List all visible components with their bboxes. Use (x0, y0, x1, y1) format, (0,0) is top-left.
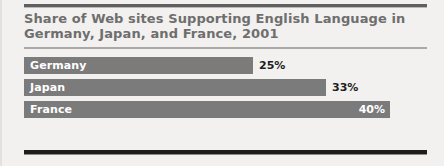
bar-row: France 40% (24, 101, 427, 118)
bar-row: Japan 33% (24, 79, 427, 96)
bar-plot-area: Germany 25% Japan 33% France 40% (24, 57, 427, 145)
chart-title: Share of Web sites Supporting English La… (24, 11, 424, 41)
chart-figure: Share of Web sites Supporting English La… (0, 0, 444, 166)
bar-value-label-japan: 33% (332, 81, 358, 94)
bottom-divider-rule (24, 150, 427, 155)
bar-value-label-france: 40% (359, 104, 385, 115)
bar-category-label: Germany (30, 60, 87, 71)
bar-japan[interactable]: Japan (24, 79, 326, 96)
bar-france[interactable]: France 40% (24, 101, 390, 118)
title-divider-rule (24, 47, 427, 49)
top-divider-rule (24, 4, 427, 8)
bar-category-label: France (30, 104, 72, 115)
bar-row: Germany 25% (24, 57, 427, 74)
bar-germany[interactable]: Germany (24, 57, 253, 74)
bar-category-label: Japan (30, 82, 65, 93)
bar-value-label-germany: 25% (259, 59, 285, 72)
